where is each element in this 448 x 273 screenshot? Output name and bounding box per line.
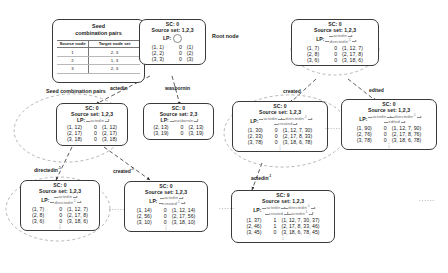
- edge-label-text: actedin: [110, 85, 128, 91]
- seed-caption: Seed combination pairs: [46, 88, 106, 94]
- lp-relation-line: created: [275, 122, 295, 126]
- node-rows: (1, 7)0(1, 12, 7)(2, 8)0(2, 17, 8)(3, 6)…: [295, 46, 375, 64]
- tree-node-wasbornin[interactable]: SC: 0Source set: 2,3LP:wasbornin(2, 13)0…: [143, 103, 214, 140]
- ellipsis-marker: ......: [419, 196, 435, 202]
- relation-label: created: [266, 212, 286, 216]
- tree-node-root[interactable]: SC: 0Source set: 1,2,3LP:(1, 1)0(1)(2, 2…: [139, 19, 206, 65]
- edge-label-sup: -1: [269, 174, 272, 178]
- lp-relation-line: createdactedin-1: [266, 211, 311, 217]
- node-label-path: LP:actedin: [60, 118, 124, 123]
- vertical-ellipsis-icon: ⋮: [236, 146, 324, 150]
- relation-label: actedin: [263, 206, 283, 210]
- row-pair: (3, 18): [67, 137, 89, 142]
- seed-table-title: Seed combination pairs: [57, 23, 140, 37]
- edge-label-text: directedin: [34, 167, 58, 173]
- diagram-canvas: Seed combination pairs Source node Targe…: [0, 0, 448, 273]
- lp-relation-stack: actedindirectedin-1edited: [369, 114, 418, 124]
- seed-cell-targets: 2, 3: [89, 65, 140, 73]
- row-pair: (3, 3): [152, 57, 174, 62]
- relation-sup: -1: [305, 210, 308, 214]
- edge-label-edited: edited: [369, 87, 384, 93]
- row-pair: (3, 19): [154, 131, 176, 136]
- node-rows: (1, 14)0(1, 12, 14)(2, 56)0(2, 17, 56)(3…: [128, 208, 204, 226]
- lp-label: LP:: [161, 118, 169, 123]
- edge-label-sup: -1: [58, 166, 61, 170]
- relation-label: created-1: [160, 201, 183, 207]
- relation-label: actedin: [369, 115, 389, 119]
- row-sc: 0: [333, 58, 338, 63]
- relation-label: directedin-1: [326, 39, 353, 45]
- edge-label-actedin-bottom: actedin-1: [251, 174, 271, 181]
- node-rows: (1, 90)0(1, 12, 7, 90)(2, 76)0(2, 17, 8,…: [345, 126, 433, 144]
- ellipsis-marker: ......: [219, 204, 235, 210]
- lp-relation-line: directedin-1: [51, 200, 78, 206]
- node-rows: (1, 12)0(1, 12)(2, 17)0(2, 17)(3, 18)0(3…: [60, 125, 124, 143]
- row-path: (3, 18, 6, 78, 45): [281, 230, 319, 235]
- row-path: (3, 18, 6, 78): [283, 140, 312, 145]
- seed-combination-table: Seed combination pairs Source node Targe…: [52, 19, 145, 83]
- lp-label: LP:: [253, 208, 261, 213]
- edge-label-text: created: [113, 168, 131, 174]
- edge-label-text: actedin: [251, 175, 269, 181]
- row-sc: 0: [180, 131, 185, 136]
- table-row: (3, 6)0(3, 18, 6): [295, 58, 375, 63]
- lp-relation-line: edited: [385, 120, 403, 124]
- seed-table-body: 1 2, 3 2 1, 3 3 2, 3: [57, 48, 140, 73]
- arrow-head-icon: [80, 201, 82, 203]
- row-path: (3): [187, 57, 193, 62]
- row-path: (3, 18, 6): [67, 219, 88, 224]
- row-sc: 0: [178, 57, 183, 62]
- node-label-path: LP:actedindirectedin-1edited: [345, 114, 433, 124]
- lp-relation-line: wasbornin: [171, 119, 197, 123]
- tree-node-created-mid[interactable]: SC: 0Source set: 1,2,3LP:actedindirected…: [232, 101, 328, 152]
- lp-label: LP:: [359, 117, 367, 122]
- lp-relation-stack: actedindirectedin-1: [326, 34, 353, 44]
- relation-sup: -1: [348, 38, 351, 42]
- seed-title-line1: Seed: [57, 23, 140, 30]
- tree-node-created-left[interactable]: SC: 0Source set: 1,2,3LP:actedincreated-…: [124, 181, 208, 232]
- table-row: (3, 18)0(3, 18): [60, 137, 124, 142]
- arrow-head-icon: [314, 207, 316, 209]
- edge-label-sup: -1: [131, 167, 134, 171]
- relation-sup: -1: [73, 199, 76, 203]
- node-label-path: LP:actedincreated-1: [128, 196, 204, 206]
- seed-cell-source: 2: [57, 56, 89, 64]
- edge-label-directedin: directedin-1: [34, 166, 61, 173]
- arrow-head-icon: [197, 119, 199, 121]
- row-pair: (3, 78): [248, 140, 270, 145]
- row-pair: (3, 6): [307, 58, 329, 63]
- root-node-label: Root node: [212, 33, 239, 39]
- row-path: (3, 18, 6, 78): [392, 138, 421, 143]
- seed-cell-source: 1: [57, 48, 89, 56]
- vertical-ellipsis-icon: ⋮: [24, 225, 96, 229]
- edge-label-wasbornin-root: wasbornin: [165, 85, 190, 91]
- node-rows: (1, 1)0(1)(2, 2)0(2)(3, 3)0(3): [143, 45, 202, 63]
- edge-actedin-directedin: [56, 147, 72, 180]
- relation-sup: -1: [177, 200, 180, 204]
- seed-table-header-row: Source node Target node set: [57, 40, 140, 48]
- lp-label: LP:: [149, 199, 157, 204]
- arrow-head-icon: [355, 40, 357, 42]
- arrow-head-icon: [351, 35, 353, 37]
- seed-cell-targets: 2, 3: [89, 48, 140, 56]
- edge-actedin-createdleft: [104, 147, 150, 180]
- node-source-set: Source set: 1,2,3: [60, 112, 124, 117]
- lp-relation-stack: actedindirectedin-1: [51, 195, 78, 205]
- node-source-set: Source set: 1,2,3: [345, 108, 433, 113]
- node-label-path: LP:actedindirectedin-1created: [236, 116, 324, 126]
- vertical-ellipsis-icon: ⋮: [128, 226, 204, 230]
- ellipsis-marker: ......: [325, 124, 341, 130]
- lp-relation-line: created-1: [160, 201, 183, 207]
- tree-node-top-right[interactable]: SC: 0Source set: 1,2,3LP:actedindirected…: [291, 19, 379, 66]
- lp-label: LP:: [163, 36, 171, 41]
- table-row: 3 2, 3: [57, 65, 140, 73]
- arrow-head-icon: [182, 197, 184, 199]
- relation-sup: -1: [304, 115, 307, 119]
- tree-node-actedin[interactable]: SC: 0Source set: 1,2,3LP:actedin(1, 12)0…: [56, 103, 128, 146]
- node-source-set: Source set: 1,2,3: [143, 28, 202, 33]
- relation-label: directedin-1: [51, 200, 78, 206]
- vertical-ellipsis-icon: ⋮: [345, 144, 433, 148]
- tree-node-sc9[interactable]: SC: 9Source set: 1,2,3LP:actedindirected…: [231, 190, 335, 243]
- tree-node-edited[interactable]: SC: 0Source set: 1,2,3LP:actedindirected…: [341, 99, 437, 150]
- tree-node-directedin[interactable]: SC: 0Source set: 1,2,3LP:actedindirected…: [20, 180, 100, 231]
